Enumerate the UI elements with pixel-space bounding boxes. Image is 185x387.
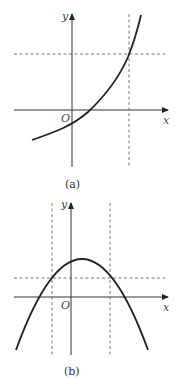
graph-a: y x O (a): [14, 10, 170, 191]
origin-label-b: O: [61, 299, 70, 312]
graph-b: y x O (b): [14, 198, 170, 378]
x-label-a: x: [163, 114, 170, 127]
y-label-a: y: [61, 10, 69, 23]
figure-canvas: y x O (a) y x O (b): [0, 0, 185, 387]
parabola-curve-b: [16, 259, 148, 350]
y-label-b: y: [60, 198, 68, 211]
x-label-b: x: [163, 301, 170, 314]
exponential-curve-a: [32, 15, 141, 140]
caption-b: (b): [64, 365, 80, 378]
origin-label-a: O: [61, 112, 70, 125]
caption-a: (a): [65, 178, 80, 191]
